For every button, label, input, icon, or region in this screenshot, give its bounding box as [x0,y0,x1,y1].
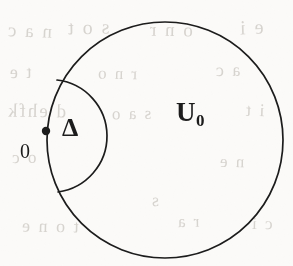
outer-circle-U0 [47,22,283,258]
label-U0-base: U [176,97,196,127]
label-origin-zero: 0 [20,141,30,161]
figure-canvas: n a cs o to n re it er n oa cd ehfks a o… [0,0,293,266]
diagram-svg [0,0,293,266]
origin-point-dot [42,127,50,135]
label-inner-region-delta: Δ [62,115,78,141]
label-U0-subscript: 0 [196,111,205,130]
label-outer-region: U0 [176,99,205,129]
